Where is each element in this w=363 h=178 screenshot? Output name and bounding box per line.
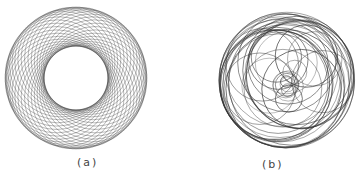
figure-b-label: (b) xyxy=(262,158,284,171)
figure-b-irregular-pattern xyxy=(219,12,355,148)
figure-a-ring-pattern xyxy=(5,7,147,149)
figure-a-label: (a) xyxy=(77,156,98,169)
figure-canvas xyxy=(0,0,363,178)
